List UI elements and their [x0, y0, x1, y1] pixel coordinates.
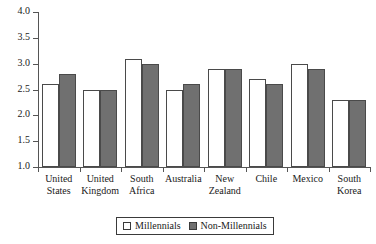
legend-entry: Millennials: [123, 220, 181, 232]
x-tick: [370, 167, 371, 172]
y-tick-label: 4.0: [0, 6, 30, 16]
legend-entry: Non-Millennials: [189, 220, 267, 232]
x-tick: [246, 167, 247, 172]
x-tick: [38, 167, 39, 172]
y-tick-label: 3.5: [0, 32, 30, 42]
category-label-line: Chile: [246, 173, 288, 185]
category-label-line: New: [204, 173, 246, 185]
x-tick: [80, 167, 81, 172]
bar-non-millennials: [266, 84, 283, 167]
category-label-line: South: [329, 173, 371, 185]
y-tick-label: 1.0: [0, 161, 30, 171]
bar-non-millennials: [183, 84, 200, 167]
bar-group: [38, 12, 80, 167]
bar-group: [204, 12, 246, 167]
category-label: Australia: [163, 173, 205, 185]
x-tick: [287, 167, 288, 172]
x-tick: [329, 167, 330, 172]
bar-pair: [80, 12, 122, 167]
bar-group: [121, 12, 163, 167]
category-label-line: Mexico: [287, 173, 329, 185]
bar-pair: [287, 12, 329, 167]
bar-millennials: [291, 64, 308, 167]
y-tick-label: 1.5: [0, 135, 30, 145]
bar-pair: [121, 12, 163, 167]
category-label-line: States: [38, 185, 80, 197]
bar-millennials: [332, 100, 349, 167]
bar-group: [163, 12, 205, 167]
bar-non-millennials: [59, 74, 76, 167]
category-label-line: United: [80, 173, 122, 185]
plot-area: [38, 12, 370, 167]
bar-non-millennials: [349, 100, 366, 167]
category-label-line: Australia: [163, 173, 205, 185]
bar-pair: [38, 12, 80, 167]
bar-non-millennials: [100, 90, 117, 168]
bar-millennials: [208, 69, 225, 167]
bar-pair: [329, 12, 371, 167]
bar-pair: [204, 12, 246, 167]
legend-label: Non-Millennials: [201, 220, 267, 232]
x-tick: [121, 167, 122, 172]
category-label: Mexico: [287, 173, 329, 185]
bar-millennials: [249, 79, 266, 167]
chart-legend: MillennialsNon-Millennials: [116, 217, 274, 235]
y-tick-label: 2.0: [0, 109, 30, 119]
bar-group: [329, 12, 371, 167]
category-label-line: Kingdom: [80, 185, 122, 197]
category-label: SouthKorea: [329, 173, 371, 197]
category-label-line: Korea: [329, 185, 371, 197]
category-label: Chile: [246, 173, 288, 185]
bar-group: [287, 12, 329, 167]
bar-non-millennials: [308, 69, 325, 167]
category-label: UnitedStates: [38, 173, 80, 197]
bar-non-millennials: [142, 64, 159, 167]
x-tick: [204, 167, 205, 172]
grouped-bar-chart: 1.01.52.02.53.03.54.0 UnitedStatesUnited…: [0, 0, 376, 244]
legend-swatch-filled: [189, 222, 197, 230]
bar-millennials: [125, 59, 142, 168]
category-label-line: United: [38, 173, 80, 185]
category-label: UnitedKingdom: [80, 173, 122, 197]
category-label: SouthAfrica: [121, 173, 163, 197]
bar-millennials: [42, 84, 59, 167]
bar-millennials: [83, 90, 100, 168]
x-tick: [163, 167, 164, 172]
bar-pair: [246, 12, 288, 167]
y-tick-label: 3.0: [0, 58, 30, 68]
legend-swatch-open: [123, 222, 131, 230]
category-label: NewZealand: [204, 173, 246, 197]
category-label-line: South: [121, 173, 163, 185]
legend-label: Millennials: [135, 220, 181, 232]
bar-group: [80, 12, 122, 167]
category-label-line: Africa: [121, 185, 163, 197]
category-label-line: Zealand: [204, 185, 246, 197]
bar-group: [246, 12, 288, 167]
bar-non-millennials: [225, 69, 242, 167]
bar-millennials: [166, 90, 183, 168]
y-tick-label: 2.5: [0, 84, 30, 94]
bar-pair: [163, 12, 205, 167]
